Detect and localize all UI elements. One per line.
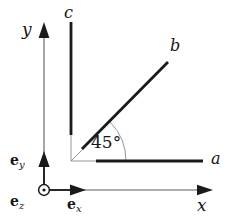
ray-b-thin-segment (71, 148, 84, 161)
ex-vector-arrowhead (70, 184, 86, 195)
ex-letter: e (67, 196, 76, 212)
vector-diagram-figure: c b a 45° y x ey ez ex (0, 0, 235, 224)
ey-letter: e (10, 152, 19, 168)
basis-vector-arrows (38, 151, 86, 196)
ray-c-label: c (64, 5, 73, 21)
ex-vector-label: ex (67, 197, 82, 214)
x-axis-arrowhead (197, 185, 213, 195)
ey-vector-arrowhead (38, 151, 49, 167)
ez-vector-dot-icon (42, 188, 45, 191)
ez-vector-label: ez (10, 194, 24, 211)
ray-b-label: b (170, 38, 180, 54)
y-axis-arrowhead (39, 22, 50, 38)
ez-letter: e (10, 193, 19, 209)
ey-subscript: y (19, 159, 25, 170)
angle-value-label: 45° (91, 134, 121, 151)
x-axis-label: x (197, 197, 207, 214)
ex-subscript: x (76, 203, 82, 214)
coordinate-axes (39, 22, 213, 195)
ez-subscript: z (19, 200, 24, 211)
ey-vector-label: ey (10, 153, 25, 170)
y-axis-label: y (22, 21, 32, 38)
ray-a-label: a (211, 151, 221, 167)
diagram-canvas (0, 0, 235, 224)
